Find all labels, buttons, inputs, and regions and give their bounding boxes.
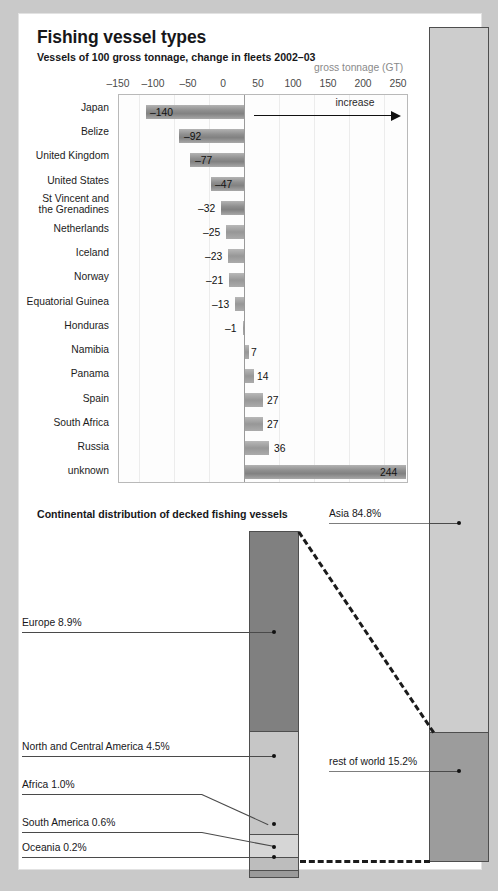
callout-africa-leader <box>22 794 202 795</box>
bar-row-united-kingdom: –77 <box>119 148 407 172</box>
bar-equatorial-guinea <box>235 297 244 311</box>
bar-spain <box>244 393 263 407</box>
axis-tick-250: 250 <box>378 78 418 89</box>
axis-tick-150: 150 <box>308 78 348 89</box>
bar-label-russia: Russia <box>0 441 109 453</box>
bar-russia <box>244 441 269 455</box>
bar-label-namibia: Namibia <box>0 344 109 356</box>
infographic-sheet: Fishing vessel types Vessels of 100 gros… <box>19 14 481 869</box>
bar-value-south-africa: 27 <box>267 419 278 430</box>
axis-tick--100: –100 <box>133 78 173 89</box>
bar-label-belize: Belize <box>0 126 109 138</box>
callout-europe-dot <box>272 630 276 634</box>
bar-panama <box>244 369 254 383</box>
bar-chart-axis: –150 –100 –50 0 50 100 150 200 250 <box>19 78 481 94</box>
callout-oceania-dot <box>272 855 276 859</box>
callout-north-central-america-label: North and Central America 4.5% <box>22 741 170 752</box>
bar-label-st-vincent-line1: St Vincent and <box>0 193 109 205</box>
bar-label-spain: Spain <box>0 393 109 405</box>
bar-label-norway: Norway <box>0 271 109 283</box>
callout-rest-of-world-leader <box>429 771 459 772</box>
dashed-connector-bottom <box>300 860 430 863</box>
dashed-connector-top <box>298 531 435 734</box>
bar-st-vincent <box>221 201 244 215</box>
callout-asia-leader <box>429 523 459 524</box>
bar-row-belize: –92 <box>119 124 407 148</box>
bar-row-equatorial-guinea: –13 <box>119 292 407 316</box>
bar-row-united-states: –47 <box>119 172 407 196</box>
callout-oceania-leader <box>22 857 272 858</box>
bar-row-netherlands: –25 <box>119 220 407 244</box>
increase-arrow-shaft <box>254 115 394 116</box>
bar-label-panama: Panama <box>0 368 109 380</box>
callout-south-america-dot <box>272 845 276 849</box>
callout-europe-label: Europe 8.9% <box>22 617 82 628</box>
section-title-continental-distribution: Continental distribution of decked fishi… <box>37 508 288 520</box>
bar-value-netherlands: –25 <box>203 227 220 238</box>
bar-iceland <box>228 249 244 263</box>
axis-tick--50: –50 <box>168 78 208 89</box>
bar-value-united-states: –47 <box>215 179 232 190</box>
axis-tick-50: 50 <box>238 78 278 89</box>
axis-tick-200: 200 <box>343 78 383 89</box>
bar-label-honduras: Honduras <box>0 320 109 332</box>
bar-label-st-vincent-line2: the Grenadines <box>0 204 109 216</box>
bar-label-united-states: United States <box>0 175 109 187</box>
callout-south-america-label: South America 0.6% <box>22 817 115 828</box>
bar-label-japan: Japan <box>0 102 109 114</box>
bar-value-japan: –140 <box>150 107 173 118</box>
bar-value-honduras: –1 <box>225 323 236 334</box>
bar-row-russia: 36 <box>119 436 407 460</box>
page-title: Fishing vessel types <box>37 27 206 48</box>
bar-value-equatorial-guinea: –13 <box>212 299 229 310</box>
callout-north-central-america-leader <box>22 756 274 757</box>
bar-value-russia: 36 <box>274 443 285 454</box>
infographic-page: Fishing vessel types Vessels of 100 gros… <box>0 0 498 891</box>
bar-label-equatorial-guinea: Equatorial Guinea <box>0 296 109 308</box>
callout-rest-of-world-label: rest of world 15.2% <box>329 756 417 767</box>
bar-value-namibia: 7 <box>251 347 257 358</box>
callout-rest-of-world-dot <box>457 769 461 773</box>
bar-row-honduras: –1 <box>119 316 407 340</box>
stack-segment-south-america <box>249 857 299 871</box>
bar-label-united-kingdom: United Kingdom <box>0 150 109 162</box>
axis-unit-label: gross tonnage (GT) <box>314 62 403 73</box>
bar-label-unknown: unknown <box>0 465 109 477</box>
bar-label-iceland: Iceland <box>0 247 109 259</box>
axis-tick-0: 0 <box>203 78 243 89</box>
callout-asia-dot <box>457 521 461 525</box>
bar-value-spain: 27 <box>267 395 278 406</box>
bar-row-namibia: 7 <box>119 340 407 364</box>
axis-tick-100: 100 <box>273 78 313 89</box>
increase-annotation-label: increase <box>300 97 410 108</box>
infographic-card: Fishing vessel types Vessels of 100 gros… <box>18 13 482 870</box>
bar-row-panama: 14 <box>119 364 407 388</box>
bar-value-unknown: 244 <box>380 467 397 478</box>
bar-label-netherlands: Netherlands <box>0 223 109 235</box>
bar-row-spain: 27 <box>119 388 407 412</box>
bar-norway <box>229 273 244 287</box>
bar-south-africa <box>244 417 263 431</box>
bar-value-norway: –21 <box>206 275 223 286</box>
bar-row-norway: –21 <box>119 268 407 292</box>
page-subtitle: Vessels of 100 gross tonnage, change in … <box>37 51 316 63</box>
callout-asia-underline <box>329 523 429 524</box>
bar-value-united-kingdom: –77 <box>195 155 212 166</box>
bar-row-south-africa: 27 <box>119 412 407 436</box>
callout-north-central-america-dot <box>272 754 276 758</box>
increase-arrow-head-icon <box>391 111 401 121</box>
callout-europe-leader <box>22 632 274 633</box>
bar-row-st-vincent: –32 <box>119 196 407 220</box>
bar-netherlands <box>226 225 244 239</box>
bar-chart-plot: –140 –92 –77 –47 <box>118 94 408 483</box>
callout-south-america-leader <box>22 832 202 833</box>
zero-axis-line <box>244 95 245 482</box>
stack-segment-oceania <box>249 870 299 878</box>
bar-value-belize: –92 <box>184 131 201 142</box>
bar-row-iceland: –23 <box>119 244 407 268</box>
callout-asia-label: Asia 84.8% <box>329 508 381 519</box>
world-segment-asia <box>429 27 489 733</box>
bar-label-south-africa: South Africa <box>0 417 109 429</box>
callout-oceania-label: Oceania 0.2% <box>22 842 87 853</box>
world-segment-rest-of-world <box>429 732 489 862</box>
